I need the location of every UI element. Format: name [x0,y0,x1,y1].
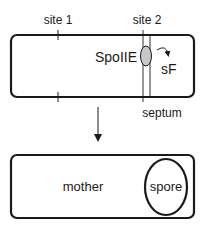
site2-label: site 2 [133,13,162,27]
activation-arrow-icon [157,48,168,54]
spoiie-protein [141,46,152,66]
spore-label: spore [150,179,183,194]
predivisional-cell: site 1 site 2 SpoIIE sF septum [11,13,194,120]
spoiie-label: SpoIIE [95,49,137,65]
sigma-f-label: sF [161,61,177,77]
sporulating-cell: mother spore [11,155,194,218]
septum-label: septum [142,106,181,120]
sporulation-diagram: site 1 site 2 SpoIIE sF septum mother sp… [0,0,204,229]
site1-label: site 1 [44,13,73,27]
mother-label: mother [63,179,104,194]
